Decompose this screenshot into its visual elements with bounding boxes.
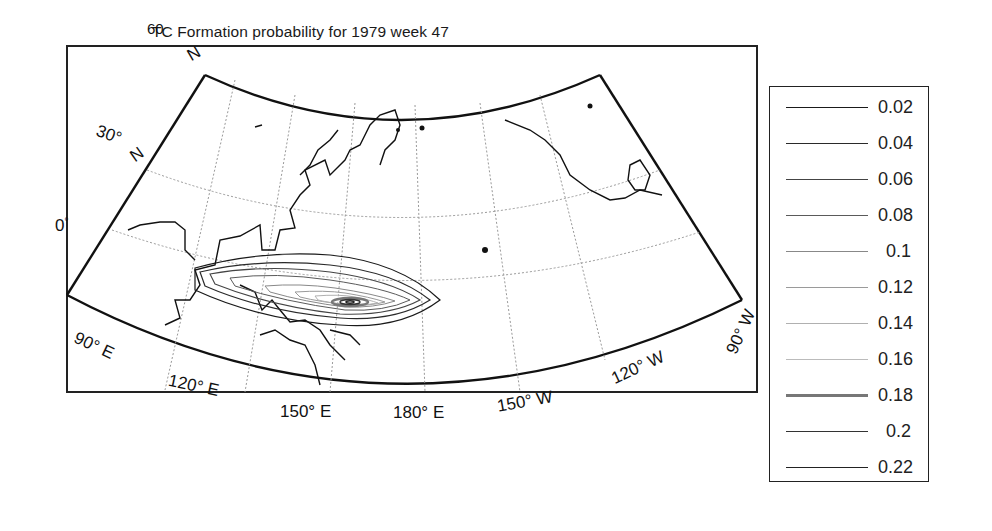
legend-item: 0.02	[770, 97, 928, 117]
legend-swatch	[786, 287, 868, 288]
legend-item: 0.06	[770, 169, 928, 189]
legend-item: 0.16	[770, 349, 928, 369]
legend-swatch	[786, 394, 868, 397]
coastlines	[128, 110, 662, 385]
legend-swatch	[786, 107, 868, 108]
legend-swatch	[786, 467, 868, 468]
legend-swatch	[786, 215, 868, 216]
legend-item: 0.22	[770, 457, 928, 477]
legend-swatch	[786, 179, 868, 180]
legend-swatch	[786, 431, 868, 432]
lon-label-150e: 150° E	[280, 402, 331, 422]
probability-contours	[195, 254, 440, 326]
legend-item: 0.12	[770, 277, 928, 297]
graticule	[112, 80, 700, 392]
legend-item: 0.2	[770, 421, 928, 441]
islands	[396, 104, 593, 254]
legend-swatch	[786, 143, 868, 144]
legend-item: 0.14	[770, 313, 928, 333]
legend-swatch	[786, 251, 868, 252]
legend-item: 0.18	[770, 385, 928, 405]
lon-label-180e: 180° E	[393, 403, 444, 423]
lat-label-60n: 60	[147, 20, 164, 37]
projection-boundary	[67, 75, 742, 384]
contour-legend: 0.02 0.04 0.06 0.08 0.1 0.12 0.14 0.16 0…	[769, 86, 929, 482]
lat-label-0: 0°	[55, 216, 68, 236]
legend-item: 0.04	[770, 133, 928, 153]
legend-swatch	[786, 323, 868, 324]
legend-item: 0.08	[770, 205, 928, 225]
legend-item: 0.1	[770, 241, 928, 261]
legend-swatch	[786, 359, 868, 360]
